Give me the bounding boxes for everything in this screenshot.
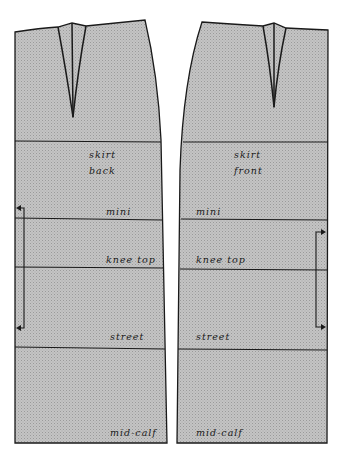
back-dart-centerline	[72, 23, 73, 117]
back-mini-label: mini	[106, 206, 131, 217]
skirt-front-piece: skirt front mini knee top street mid-cal…	[177, 22, 328, 443]
front-title-line1: skirt	[234, 149, 261, 160]
front-street-label: street	[196, 331, 230, 342]
front-title-line2: front	[233, 165, 263, 176]
back-title-line1: skirt	[89, 149, 116, 160]
back-street-label: street	[110, 331, 144, 342]
skirt-back-outline	[15, 20, 167, 443]
back-knee-top-label: knee top	[106, 254, 156, 265]
skirt-back-piece: skirt back mini knee top street mid-calf	[15, 20, 167, 443]
skirt-front-outline	[177, 22, 328, 443]
back-mid-calf-label: mid-calf	[110, 427, 157, 438]
back-title-line2: back	[89, 165, 116, 176]
front-knee-top-label: knee top	[196, 254, 246, 265]
front-mini-label: mini	[196, 206, 221, 217]
skirt-pattern-diagram: skirt back mini knee top street mid-calf…	[0, 0, 341, 457]
front-mid-calf-label: mid-calf	[196, 427, 243, 438]
